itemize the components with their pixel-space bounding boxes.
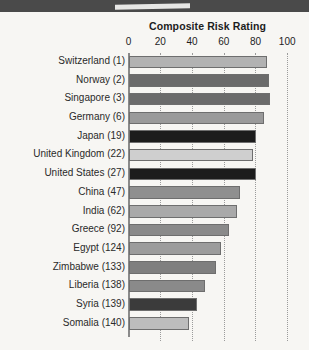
bar-row: India (62) — [0, 203, 309, 222]
category-label: China (47) — [78, 186, 125, 197]
bar — [129, 149, 253, 162]
chart-title: Composite Risk Rating — [128, 20, 287, 32]
bar — [129, 93, 270, 106]
bar-rows: Switzerland (1)Norway (2)Singapore (3)Ge… — [0, 53, 309, 334]
page-header-band — [0, 0, 309, 12]
category-label: India (62) — [83, 205, 125, 216]
category-label: Norway (2) — [76, 74, 125, 85]
bar — [129, 205, 237, 218]
category-label: Syria (139) — [76, 298, 125, 309]
x-tick-40: 40 — [186, 36, 197, 47]
x-tick-60: 60 — [218, 36, 229, 47]
bar-row: United States (27) — [0, 165, 309, 184]
category-label: United States (27) — [44, 167, 125, 178]
bar-row: Germany (6) — [0, 109, 309, 128]
bar-row: Syria (139) — [0, 296, 309, 315]
x-tick-0: 0 — [126, 36, 132, 47]
bar-row: Japan (19) — [0, 128, 309, 147]
bar — [129, 56, 267, 69]
bar — [129, 224, 229, 237]
bar — [129, 168, 256, 181]
x-axis-tick-labels: 020406080100 — [0, 36, 309, 50]
x-tick-20: 20 — [155, 36, 166, 47]
bar — [129, 130, 256, 143]
category-label: Japan (19) — [77, 130, 125, 141]
bar-row: Somalia (140) — [0, 315, 309, 334]
x-tick-80: 80 — [250, 36, 261, 47]
category-label: Somalia (140) — [63, 317, 125, 328]
category-label: Switzerland (1) — [58, 55, 125, 66]
category-label: Greece (92) — [72, 223, 125, 234]
bar — [129, 280, 205, 293]
category-label: Zimbabwe (133) — [53, 261, 125, 272]
bar-row: Switzerland (1) — [0, 53, 309, 72]
category-label: Liberia (138) — [69, 279, 125, 290]
bar-row: Liberia (138) — [0, 277, 309, 296]
bar — [129, 298, 197, 311]
bar — [129, 74, 269, 87]
bar-row: China (47) — [0, 184, 309, 203]
bar — [129, 242, 221, 255]
category-label: Egypt (124) — [73, 242, 125, 253]
composite-risk-rating-chart: Composite Risk Rating 020406080100 Switz… — [0, 12, 309, 350]
bar-row: Norway (2) — [0, 72, 309, 91]
bar-row: Egypt (124) — [0, 240, 309, 259]
bar-row: United Kingdom (22) — [0, 146, 309, 165]
category-label: United Kingdom (22) — [33, 148, 125, 159]
bar-row: Zimbabwe (133) — [0, 259, 309, 278]
bar-row: Greece (92) — [0, 221, 309, 240]
page-body: Composite Risk Rating 020406080100 Switz… — [0, 12, 309, 350]
bar — [129, 186, 240, 199]
header-sliver-decoration — [115, 3, 190, 10]
x-tick-100: 100 — [279, 36, 296, 47]
category-label: Singapore (3) — [64, 92, 125, 103]
bar — [129, 261, 216, 274]
bar-row: Singapore (3) — [0, 90, 309, 109]
bar — [129, 317, 189, 330]
bar — [129, 112, 264, 125]
category-label: Germany (6) — [69, 111, 125, 122]
